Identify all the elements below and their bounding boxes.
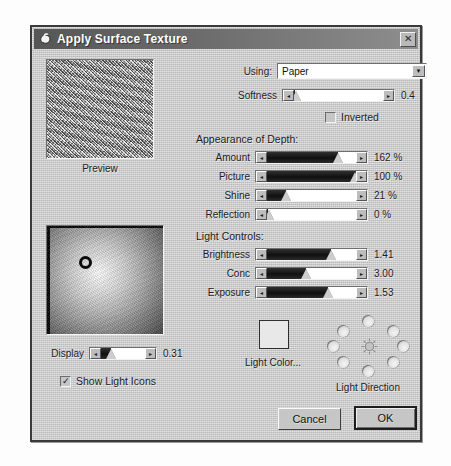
display-slider-thumb[interactable] [106,349,116,359]
light-color-swatch[interactable] [259,320,289,349]
light-color-label[interactable]: Light Color... [245,357,301,368]
conc-slider-row: Conc ◂ ▸ 3.00 [196,267,393,280]
reflection-slider-thumb[interactable] [267,210,274,220]
light-direction-dot-ne[interactable] [387,325,399,337]
amount-slider[interactable]: ◂ ▸ [255,151,368,164]
brightness-value: 1.41 [374,249,393,260]
display-label: Display [46,348,84,359]
exposure-slider-thumb[interactable] [323,288,333,298]
picture-value: 100 % [374,171,402,182]
picture-slider[interactable]: ◂ ▸ [255,170,368,183]
exposure-slider-decrement[interactable]: ◂ [256,287,267,298]
reflection-value: 0 % [374,209,391,220]
softness-slider-increment[interactable]: ▸ [383,90,394,101]
picture-slider-fill [267,171,356,182]
show-light-icons-checkbox[interactable]: ✓ [60,376,71,387]
using-row: Using: Paper ▼ [230,63,427,79]
display-slider-row: Display ◂ ▸ 0.31 [46,347,182,360]
picture-label: Picture [196,171,250,182]
exposure-slider-fill [267,287,328,298]
picture-slider-thumb[interactable] [350,172,356,182]
light-sphere-preview[interactable] [46,225,164,335]
softness-value: 0.4 [401,90,415,101]
display-slider-increment[interactable]: ▸ [145,348,156,359]
picture-slider-increment[interactable]: ▸ [356,171,367,182]
light-direction-dot-sw[interactable] [337,356,349,368]
reflection-slider-track[interactable] [267,209,356,220]
light-direction-dot-nw[interactable] [337,325,349,337]
title-bar[interactable]: Apply Surface Texture ✕ [34,29,418,49]
conc-value: 3.00 [374,268,393,279]
amount-slider-increment[interactable]: ▸ [356,152,367,163]
softness-slider-thumb[interactable] [294,91,301,101]
sphere-grain-overlay [47,226,163,334]
exposure-slider-track[interactable] [267,287,356,298]
exposure-slider[interactable]: ◂ ▸ [255,286,368,299]
using-selected-value: Paper [282,66,309,77]
reflection-slider-increment[interactable]: ▸ [356,209,367,220]
conc-slider-thumb[interactable] [301,269,311,279]
close-icon[interactable]: ✕ [400,32,416,47]
amount-slider-thumb[interactable] [333,153,343,163]
brightness-slider-track[interactable] [267,249,356,260]
light-direction-dot-se[interactable] [387,356,399,368]
amount-slider-track[interactable] [267,152,356,163]
shine-slider-thumb[interactable] [281,191,291,201]
light-direction-control[interactable] [325,315,411,377]
inverted-label: Inverted [341,111,379,123]
display-slider-decrement[interactable]: ◂ [90,348,101,359]
preview-label: Preview [46,163,154,174]
shine-slider-track[interactable] [267,190,356,201]
window-title: Apply Surface Texture [57,32,188,46]
shine-slider-increment[interactable]: ▸ [356,190,367,201]
shine-slider-decrement[interactable]: ◂ [256,190,267,201]
amount-slider-fill [267,152,338,163]
conc-slider[interactable]: ◂ ▸ [255,267,368,280]
shine-label: Shine [196,190,250,201]
conc-slider-increment[interactable]: ▸ [356,268,367,279]
brightness-slider[interactable]: ◂ ▸ [255,248,368,261]
reflection-slider[interactable]: ◂ ▸ [255,208,368,221]
brightness-slider-fill [267,249,331,260]
hand-texture-icon [38,32,53,46]
cancel-button[interactable]: Cancel [278,408,341,430]
paper-texture-image [47,60,153,158]
softness-slider[interactable]: ◂ ▸ [282,89,395,102]
using-select[interactable]: Paper ▼ [277,63,427,79]
brightness-slider-increment[interactable]: ▸ [356,249,367,260]
show-light-icons-row[interactable]: ✓ Show Light Icons [60,375,156,387]
amount-slider-decrement[interactable]: ◂ [256,152,267,163]
brightness-slider-thumb[interactable] [326,250,336,260]
exposure-slider-increment[interactable]: ▸ [356,287,367,298]
shine-slider-row: Shine ◂ ▸ 21 % [196,189,397,202]
display-slider[interactable]: ◂ ▸ [89,347,157,360]
ok-button[interactable]: OK [354,406,417,430]
reflection-slider-row: Reflection ◂ ▸ 0 % [196,208,391,221]
brightness-slider-decrement[interactable]: ◂ [256,249,267,260]
display-value: 0.31 [163,348,182,359]
apply-surface-texture-dialog: Apply Surface Texture ✕ Preview Display … [30,25,422,442]
softness-slider-decrement[interactable]: ◂ [283,90,294,101]
conc-slider-track[interactable] [267,268,356,279]
softness-slider-track[interactable] [294,90,383,101]
softness-slider-row: Softness ◂ ▸ 0.4 [230,89,415,102]
light-direction-dot-e[interactable] [397,340,409,352]
reflection-slider-decrement[interactable]: ◂ [256,209,267,220]
preview-thumbnail[interactable] [46,59,154,159]
light-direction-dot-w[interactable] [327,340,339,352]
chevron-down-icon[interactable]: ▼ [412,65,425,77]
appearance-of-depth-title: Appearance of Depth: [196,133,298,145]
inverted-row[interactable]: Inverted [325,111,379,123]
conc-slider-decrement[interactable]: ◂ [256,268,267,279]
brightness-slider-row: Brightness ◂ ▸ 1.41 [196,248,393,261]
display-slider-track[interactable] [101,348,145,359]
light-direction-dot-n[interactable] [362,315,374,327]
exposure-value: 1.53 [374,287,393,298]
picture-slider-track[interactable] [267,171,356,182]
shine-slider[interactable]: ◂ ▸ [255,189,368,202]
light-handle-icon[interactable] [79,256,92,269]
light-direction-dot-s[interactable] [362,365,374,377]
picture-slider-decrement[interactable]: ◂ [256,171,267,182]
shine-value: 21 % [374,190,397,201]
inverted-checkbox[interactable] [325,112,336,123]
